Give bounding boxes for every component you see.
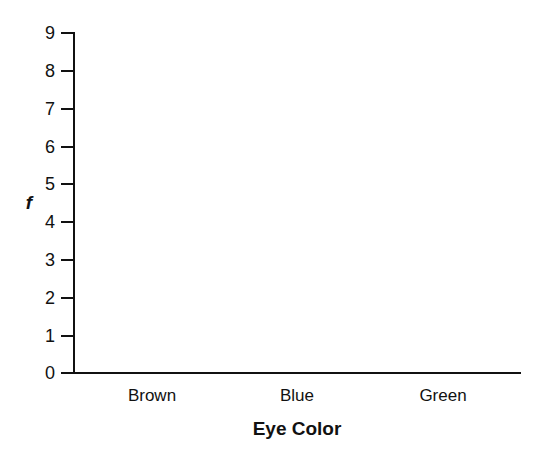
- y-tick-label: 7: [0, 100, 55, 118]
- y-tick-mark: [61, 32, 74, 34]
- y-tick-label: 2: [0, 289, 55, 307]
- x-axis-title: Eye Color: [73, 418, 521, 440]
- y-tick-mark: [61, 297, 74, 299]
- y-axis-label: f: [18, 192, 40, 214]
- y-tick-mark: [61, 70, 74, 72]
- x-category-label-blue: Blue: [227, 386, 367, 406]
- plot-area: [75, 32, 521, 372]
- x-category-label-brown: Brown: [82, 386, 222, 406]
- y-tick-label: 0: [0, 364, 55, 382]
- y-tick-mark: [61, 259, 74, 261]
- x-category-label-green: Green: [373, 386, 513, 406]
- x-axis-line: [73, 372, 521, 374]
- y-tick-mark: [61, 146, 74, 148]
- y-tick-mark: [61, 221, 74, 223]
- y-tick-label: 9: [0, 24, 55, 42]
- y-tick-label: 6: [0, 138, 55, 156]
- y-tick-mark: [61, 335, 74, 337]
- bar-chart-figure: f 9 8 7 6 5 4 3 2 1 0 Brown Blue Green E…: [0, 0, 547, 468]
- y-tick-label: 3: [0, 251, 55, 269]
- y-tick-label: 5: [0, 175, 55, 193]
- y-tick-mark: [61, 183, 74, 185]
- y-tick-label: 1: [0, 327, 55, 345]
- y-tick-mark: [61, 108, 74, 110]
- y-tick-label: 4: [0, 213, 55, 231]
- y-tick-label: 8: [0, 62, 55, 80]
- y-tick-mark: [61, 372, 74, 374]
